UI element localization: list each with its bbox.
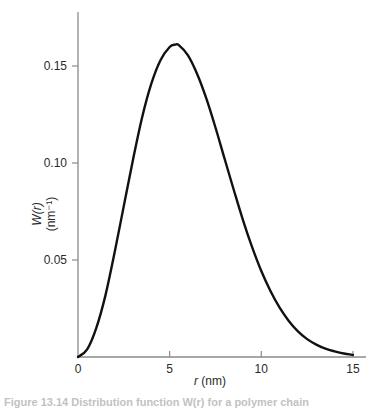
y-ticks: 0.050.100.15 [44, 59, 78, 267]
x-ticks: 051015 [75, 351, 360, 376]
y-axis-label-line2: (nm⁻¹) [44, 197, 58, 232]
axes [78, 12, 366, 357]
x-tick-label: 15 [346, 362, 360, 376]
y-axis-label: W(r) (nm⁻¹) [30, 197, 58, 232]
y-tick-label: 0.15 [44, 59, 68, 73]
y-tick-label: 0.10 [44, 156, 68, 170]
x-axis-label: r (nm) [194, 374, 226, 388]
x-axis-unit: (nm) [198, 374, 226, 388]
y-axis-label-line1: W(r) [30, 202, 44, 225]
x-tick-label: 0 [75, 362, 82, 376]
figure-caption: Figure 13.14 Distribution function W(r) … [4, 396, 309, 408]
x-tick-label: 10 [255, 362, 269, 376]
y-tick-label: 0.05 [44, 253, 68, 267]
x-tick-label: 5 [166, 362, 173, 376]
distribution-curve [78, 44, 353, 357]
